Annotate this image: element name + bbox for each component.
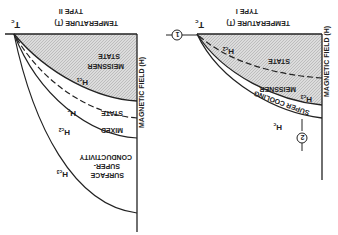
type-i-diagram: 1 2 TYPE I TEMPERATURE (T) Tc MAGNETIC F…: [166, 8, 331, 180]
superconductor-phase-diagrams: TYPE II TEMPERATURE (T) Tc MAGNETIC FIEL…: [0, 0, 338, 235]
hc1-label: Hc1: [76, 77, 88, 87]
type2-title: TYPE II: [59, 8, 83, 15]
temperature-label-type2: TEMPERATURE (T): [54, 19, 118, 27]
hc2-label-type2: Hc2: [58, 127, 70, 137]
surface-superconductivity-label: CONDUCTIVITY SUPER- SURFACE: [78, 154, 132, 179]
hc-label-type2: Hc: [67, 108, 76, 118]
temperature-label-type1: TEMPERATURE (T): [226, 19, 290, 27]
meissner-label-type1: MEISSNER: [259, 86, 296, 93]
hc-label-type1: Hc: [273, 122, 282, 132]
tc-label-type1: Tc: [195, 19, 205, 30]
field-label-type2: MAGNETIC FIELD (H): [138, 57, 146, 128]
hc3-label-type2: Hc3: [56, 169, 68, 179]
mixed-state-label: STATE MIXED: [99, 110, 123, 134]
state-label-type1: STATE: [268, 58, 290, 65]
type-ii-diagram: TYPE II TEMPERATURE (T) Tc MAGNETIC FIEL…: [5, 8, 146, 232]
path-1-number: 1: [176, 31, 180, 38]
path-2-number: 2: [301, 134, 305, 141]
type1-title: TYPE I: [236, 8, 258, 15]
tc-label-type2: Tc: [11, 19, 21, 30]
field-label-type1: MAGNETIC FIELD (H): [323, 26, 331, 97]
